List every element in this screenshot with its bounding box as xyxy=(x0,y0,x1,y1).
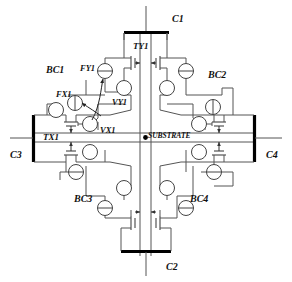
source-bc4-voltage-2[interactable] xyxy=(160,181,175,196)
source-label-fy1: FY1 xyxy=(80,64,95,73)
source-bc4-current[interactable] xyxy=(207,165,222,180)
terminal-label-c3: C3 xyxy=(10,150,22,160)
source-label-fx1: FX1 xyxy=(56,90,72,99)
device-ty1[interactable] xyxy=(124,33,167,70)
source-vx1[interactable] xyxy=(83,117,98,132)
terminal-label-c2: C2 xyxy=(166,262,178,272)
source-bc2-current-2[interactable] xyxy=(206,100,221,115)
source-bc2-current[interactable] xyxy=(179,64,194,79)
source-bc3-voltage-2[interactable] xyxy=(117,181,132,196)
quadrant-label-bc1: BC1 xyxy=(46,65,64,75)
terminal-c2[interactable] xyxy=(121,252,171,277)
terminal-label-c4: C4 xyxy=(266,150,278,160)
source-bc3-current[interactable] xyxy=(69,165,84,180)
source-bc4-voltage[interactable] xyxy=(192,145,207,160)
source-bc2-voltage[interactable] xyxy=(160,81,175,96)
circuit-diagram-canvas: .w{stroke:#555;stroke-width:1;fill:none;… xyxy=(0,0,292,282)
device-label-ty1: TY1 xyxy=(133,42,149,51)
source-vy1[interactable] xyxy=(117,81,132,96)
quadrant-label-bc4: BC4 xyxy=(190,194,208,204)
source-bc2-voltage-2[interactable] xyxy=(192,117,207,132)
source-bc3-voltage[interactable] xyxy=(83,145,98,160)
device-right-gate[interactable] xyxy=(212,115,254,162)
terminal-label-c1: C1 xyxy=(172,14,184,24)
substrate-label: SUBSTRATE xyxy=(148,132,191,140)
device-label-tx1: TX1 xyxy=(43,133,59,142)
source-label-vy1: VY1 xyxy=(112,98,127,107)
quadrant-label-bc2: BC2 xyxy=(208,70,226,80)
terminal-c1[interactable] xyxy=(124,6,169,33)
source-bc3-current-2[interactable] xyxy=(98,201,113,216)
source-fy1[interactable] xyxy=(98,64,113,79)
device-bottom-gate[interactable] xyxy=(121,210,171,251)
central-spine xyxy=(33,32,255,256)
source-label-vx1: VX1 xyxy=(100,126,116,135)
source-bc1-voltage-2[interactable] xyxy=(49,103,64,118)
quadrant-label-bc3: BC3 xyxy=(74,194,92,204)
